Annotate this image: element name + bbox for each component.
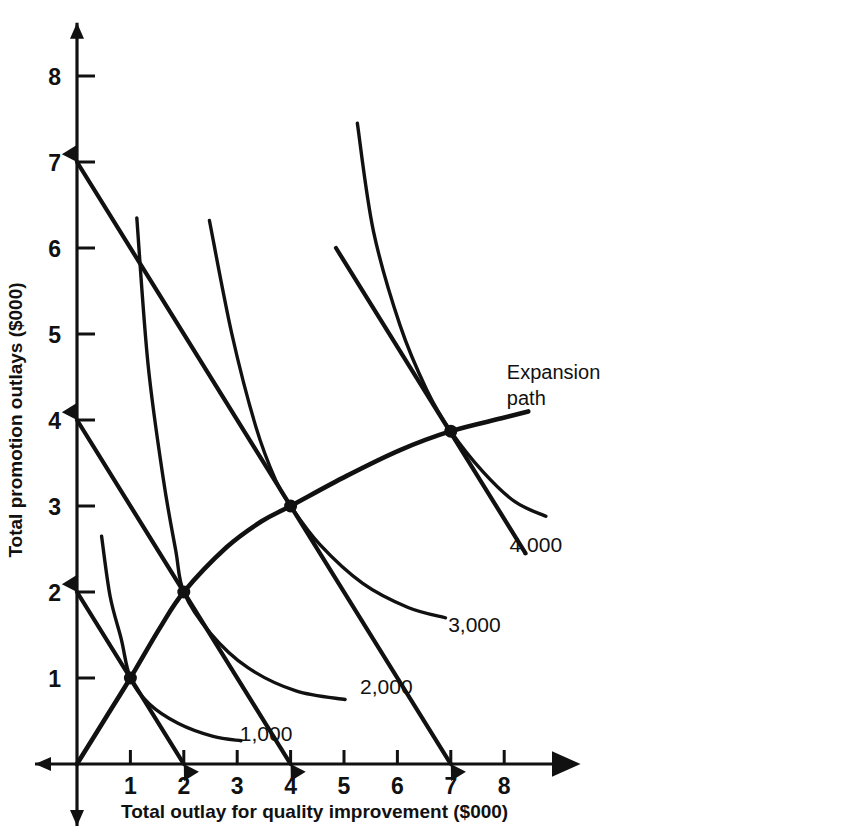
budget-3000-xaxis-arrowhead: [451, 764, 466, 781]
budget-2000-xaxis-arrowhead: [291, 764, 306, 781]
expansion-path-label-line2: path: [507, 387, 546, 409]
isoquant-label-3000: 3,000: [448, 613, 501, 636]
isoquant-label-1000: 1,000: [240, 722, 293, 745]
y-tick-label-7: 7: [48, 150, 61, 176]
y-tick-label-1: 1: [48, 666, 61, 692]
isoquant-curve-2000: [137, 218, 345, 700]
y-tick-label-3: 3: [48, 494, 61, 520]
isoquant-curve-3000: [209, 220, 445, 617]
isoquant-label-4000: 4,000: [510, 533, 563, 556]
y-axis-title: Total promotion outlays ($000): [5, 282, 26, 557]
x-tick-label-5: 5: [338, 773, 351, 799]
tangency-point-1: [124, 672, 137, 685]
budget-1000-axis-arrowhead: [62, 575, 77, 592]
x-axis-left-arrowhead: [35, 757, 51, 771]
chart-container: 12345678123456781,0002,0003,0004,000Expa…: [0, 0, 845, 836]
budget-3000-axis-arrowhead: [62, 145, 77, 162]
isoquant-label-2000: 2,000: [360, 675, 413, 698]
isoquant-curve-1000: [102, 536, 241, 741]
isoquant-expansion-path-chart: 12345678123456781,0002,0003,0004,000Expa…: [0, 0, 845, 836]
x-tick-label-6: 6: [391, 773, 404, 799]
expansion-path-curve: [77, 411, 528, 764]
x-tick-label-8: 8: [498, 773, 511, 799]
y-tick-label-6: 6: [48, 236, 61, 262]
y-tick-label-4: 4: [48, 408, 61, 434]
x-tick-label-3: 3: [231, 773, 244, 799]
y-tick-label-5: 5: [48, 322, 61, 348]
y-axis-top-arrowhead: [70, 23, 84, 39]
x-axis-title: Total outlay for quality improvement ($0…: [121, 801, 508, 822]
budget-2000-axis-arrowhead: [62, 403, 77, 420]
tangency-point-2: [177, 586, 190, 599]
x-tick-label-1: 1: [124, 773, 137, 799]
tangency-point-4: [444, 425, 457, 438]
expansion-path-label-line1: Expansion: [507, 361, 600, 383]
budget-1000-xaxis-arrowhead: [184, 764, 199, 781]
tangency-point-3: [284, 500, 297, 513]
y-tick-label-2: 2: [48, 580, 61, 606]
y-tick-label-8: 8: [48, 64, 61, 90]
y-axis-bottom-arrowhead: [70, 810, 84, 826]
